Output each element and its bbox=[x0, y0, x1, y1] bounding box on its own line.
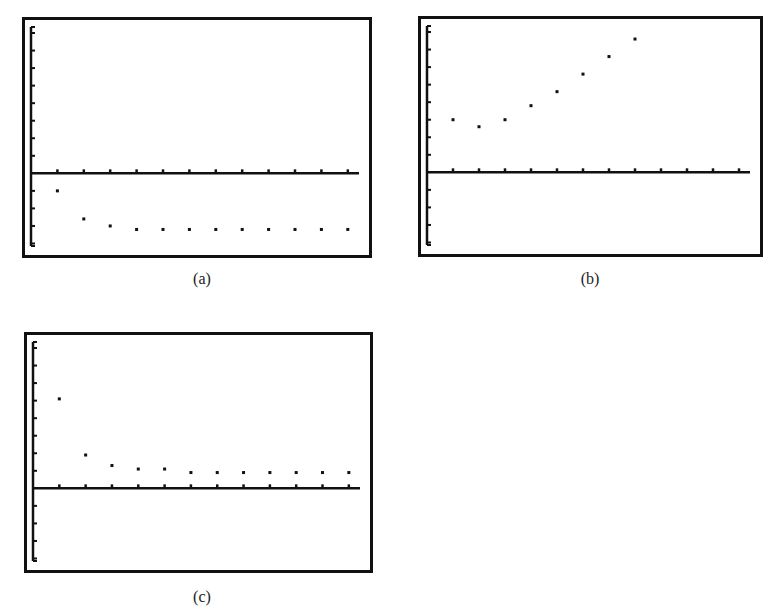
data-point bbox=[320, 228, 323, 231]
data-point bbox=[268, 471, 271, 474]
plot-frame-c bbox=[24, 332, 373, 573]
data-point bbox=[109, 224, 112, 227]
data-point bbox=[242, 471, 245, 474]
plot-canvas-a bbox=[25, 20, 369, 255]
data-point bbox=[267, 228, 270, 231]
data-point bbox=[216, 471, 219, 474]
data-point bbox=[241, 228, 244, 231]
data-point bbox=[294, 228, 297, 231]
data-point bbox=[137, 468, 140, 471]
plot-caption-a: (a) bbox=[172, 270, 232, 288]
plot-canvas-c bbox=[27, 335, 370, 570]
data-point bbox=[608, 55, 611, 58]
plot-frame-a bbox=[22, 17, 372, 258]
data-point bbox=[214, 228, 217, 231]
data-point bbox=[110, 464, 113, 467]
data-point bbox=[582, 73, 585, 76]
plot-caption-b: (b) bbox=[560, 270, 620, 288]
data-point bbox=[58, 397, 61, 400]
data-point bbox=[295, 471, 298, 474]
data-point bbox=[504, 118, 507, 121]
data-point bbox=[452, 118, 455, 121]
data-point bbox=[556, 90, 559, 93]
data-point bbox=[163, 468, 166, 471]
data-point bbox=[189, 471, 192, 474]
data-point bbox=[84, 454, 87, 457]
plot-frame-b bbox=[418, 16, 763, 257]
data-point bbox=[346, 228, 349, 231]
data-point bbox=[82, 217, 85, 220]
data-point bbox=[135, 228, 138, 231]
data-point bbox=[478, 125, 481, 128]
data-point bbox=[321, 471, 324, 474]
plot-canvas-b bbox=[421, 19, 760, 254]
data-point bbox=[56, 189, 59, 192]
data-point bbox=[188, 228, 191, 231]
data-point bbox=[347, 471, 350, 474]
data-point bbox=[530, 104, 533, 107]
plot-caption-c: (c) bbox=[172, 588, 232, 606]
data-point bbox=[634, 38, 637, 41]
data-point bbox=[162, 228, 165, 231]
